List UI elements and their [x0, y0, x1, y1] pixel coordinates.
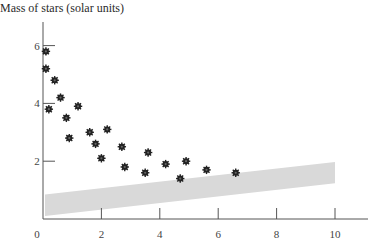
star-marker-icon: [42, 65, 50, 73]
x-tick-label: 8: [274, 228, 280, 240]
star-marker-icon: [56, 93, 64, 101]
star-marker-icon: [161, 160, 169, 168]
star-marker-icon: [86, 128, 94, 136]
star-marker-icon: [62, 114, 70, 122]
star-marker-icon: [50, 76, 58, 84]
x-tick-label: 6: [215, 228, 221, 240]
y-tick-label: 4: [34, 97, 40, 109]
scatter-chart: 0246810246: [0, 0, 388, 244]
star-marker-icon: [65, 134, 73, 142]
band-area: [45, 162, 335, 216]
star-marker-icon: [176, 174, 184, 182]
star-marker-icon: [97, 154, 105, 162]
star-marker-icon: [182, 157, 190, 165]
shaded-band: [45, 162, 335, 216]
star-marker-icon: [121, 163, 129, 171]
star-marker-icon: [232, 169, 240, 177]
y-tick-label: 2: [34, 155, 40, 167]
data-points: [42, 47, 240, 183]
x-tick-label: 0: [34, 228, 40, 240]
star-marker-icon: [91, 140, 99, 148]
star-marker-icon: [42, 47, 50, 55]
x-tick-label: 10: [330, 228, 342, 240]
star-marker-icon: [103, 125, 111, 133]
star-marker-icon: [118, 143, 126, 151]
x-tick-label: 2: [99, 228, 105, 240]
x-tick-label: 4: [157, 228, 163, 240]
star-marker-icon: [74, 102, 82, 110]
star-marker-icon: [144, 148, 152, 156]
y-tick-label: 6: [34, 40, 40, 52]
star-marker-icon: [202, 166, 210, 174]
star-marker-icon: [45, 105, 53, 113]
star-marker-icon: [141, 169, 149, 177]
